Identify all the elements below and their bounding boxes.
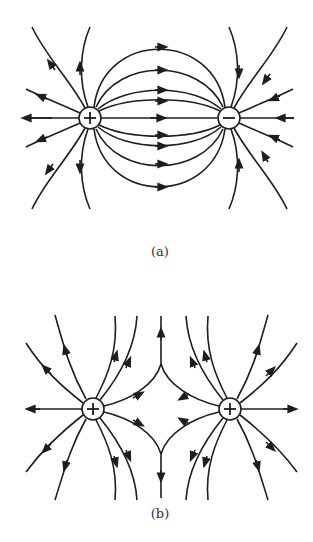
positive-charge-b-left [82,398,104,420]
caption-a: (a) [151,244,169,259]
field-lines-figure [0,0,313,542]
positive-charge-b-right [219,398,241,420]
panel-a-dipole [26,27,294,209]
positive-charge-a [79,107,101,129]
panel-b-like-charges [26,315,297,500]
negative-charge-a [218,107,240,129]
caption-b: (b) [151,506,169,521]
